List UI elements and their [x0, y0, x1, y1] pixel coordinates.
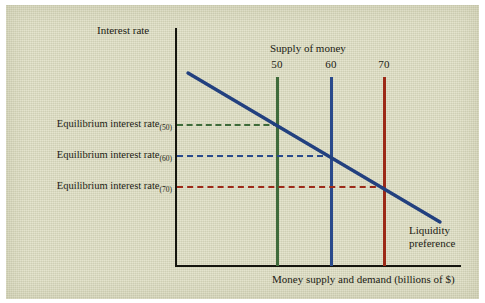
money-supply-line-60: [330, 77, 333, 266]
equilibrium-dashed-line-60: [177, 155, 333, 157]
equilibrium-label-50-subscript: (50): [160, 123, 173, 132]
equilibrium-label-70-text: Equilibrium interest rate: [57, 180, 160, 191]
equilibrium-label-50: Equilibrium interest rate(50): [57, 118, 172, 132]
x-axis: [175, 265, 461, 267]
equilibrium-label-70: Equilibrium interest rate(70): [57, 180, 172, 194]
x-axis-label: Money supply and demand (billions of $): [272, 273, 455, 285]
equilibrium-label-50-text: Equilibrium interest rate: [57, 118, 160, 129]
money-market-figure: Interest rate Money supply and demand (b…: [0, 0, 485, 303]
equilibrium-dashed-line-50: [177, 124, 279, 126]
liquidity-preference-label-line2: preference: [409, 237, 455, 250]
equilibrium-label-60: Equilibrium interest rate(60): [57, 149, 172, 163]
y-axis: [175, 28, 177, 267]
x-tick-label-60: 60: [316, 58, 346, 70]
money-supply-line-70: [383, 77, 386, 266]
equilibrium-label-60-text: Equilibrium interest rate: [57, 149, 160, 160]
equilibrium-label-60-subscript: (60): [160, 154, 173, 163]
y-axis-label: Interest rate: [97, 24, 149, 36]
equilibrium-dashed-line-70: [177, 186, 386, 188]
x-tick-label-50: 50: [262, 58, 292, 70]
liquidity-preference-label-line1: Liquidity: [409, 224, 455, 237]
equilibrium-label-70-subscript: (70): [160, 185, 173, 194]
money-supply-line-50: [276, 77, 279, 266]
x-tick-label-70: 70: [369, 58, 399, 70]
supply-of-money-title: Supply of money: [270, 42, 346, 54]
liquidity-preference-label: Liquidity preference: [409, 224, 455, 250]
